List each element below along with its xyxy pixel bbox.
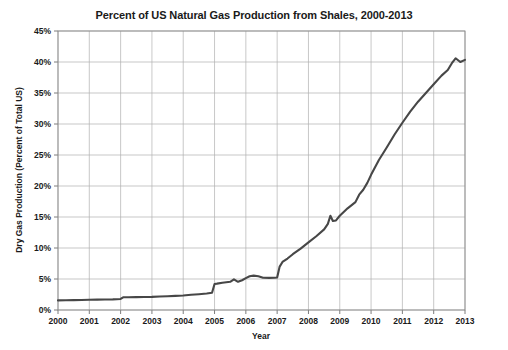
x-axis-tick-label: 2003 bbox=[142, 316, 161, 326]
y-axis-tick-label: 35% bbox=[34, 88, 51, 98]
y-axis-tick-label: 20% bbox=[34, 181, 51, 191]
y-axis-tick-label: 5% bbox=[39, 274, 52, 284]
x-axis-tick-label: 2001 bbox=[80, 316, 99, 326]
x-axis-title: Year bbox=[252, 331, 271, 341]
x-axis-tick-label: 2012 bbox=[424, 316, 443, 326]
y-axis-tick-labels: 0%5%10%15%20%25%30%35%40%45% bbox=[34, 26, 51, 315]
x-axis-tick-labels: 2000200120022003200420052006200720082009… bbox=[49, 316, 475, 326]
x-axis-tick-label: 2006 bbox=[236, 316, 255, 326]
x-axis-tick-label: 2008 bbox=[299, 316, 318, 326]
x-axis-tick-label: 2002 bbox=[111, 316, 130, 326]
x-axis-tick-label: 2013 bbox=[456, 316, 475, 326]
y-axis-tick-label: 30% bbox=[34, 119, 51, 129]
x-axis-tick-label: 2010 bbox=[362, 316, 381, 326]
y-axis-tick-label: 45% bbox=[34, 26, 51, 36]
horizontal-gridlines bbox=[58, 31, 465, 310]
y-axis-tick-label: 10% bbox=[34, 243, 51, 253]
y-axis-tick-label: 0% bbox=[39, 305, 52, 315]
y-axis-title: Dry Gas Production (Percent of Total US) bbox=[14, 87, 24, 253]
y-axis-tick-label: 25% bbox=[34, 150, 51, 160]
line-chart-plot: 0%5%10%15%20%25%30%35%40%45% 20002001200… bbox=[0, 0, 508, 350]
x-axis-tick-label: 2005 bbox=[205, 316, 224, 326]
y-axis-tick-label: 40% bbox=[34, 57, 51, 67]
data-series-line bbox=[58, 58, 465, 300]
axis-tickmarks bbox=[54, 31, 465, 314]
x-axis-tick-label: 2009 bbox=[330, 316, 349, 326]
x-axis-tick-label: 2011 bbox=[393, 316, 412, 326]
vertical-gridlines bbox=[58, 31, 465, 310]
x-axis-tick-label: 2004 bbox=[174, 316, 193, 326]
x-axis-tick-label: 2007 bbox=[268, 316, 287, 326]
plot-area-border bbox=[58, 31, 465, 310]
chart-container: Percent of US Natural Gas Production fro… bbox=[0, 0, 508, 350]
y-axis-tick-label: 15% bbox=[34, 212, 51, 222]
x-axis-tick-label: 2000 bbox=[49, 316, 68, 326]
